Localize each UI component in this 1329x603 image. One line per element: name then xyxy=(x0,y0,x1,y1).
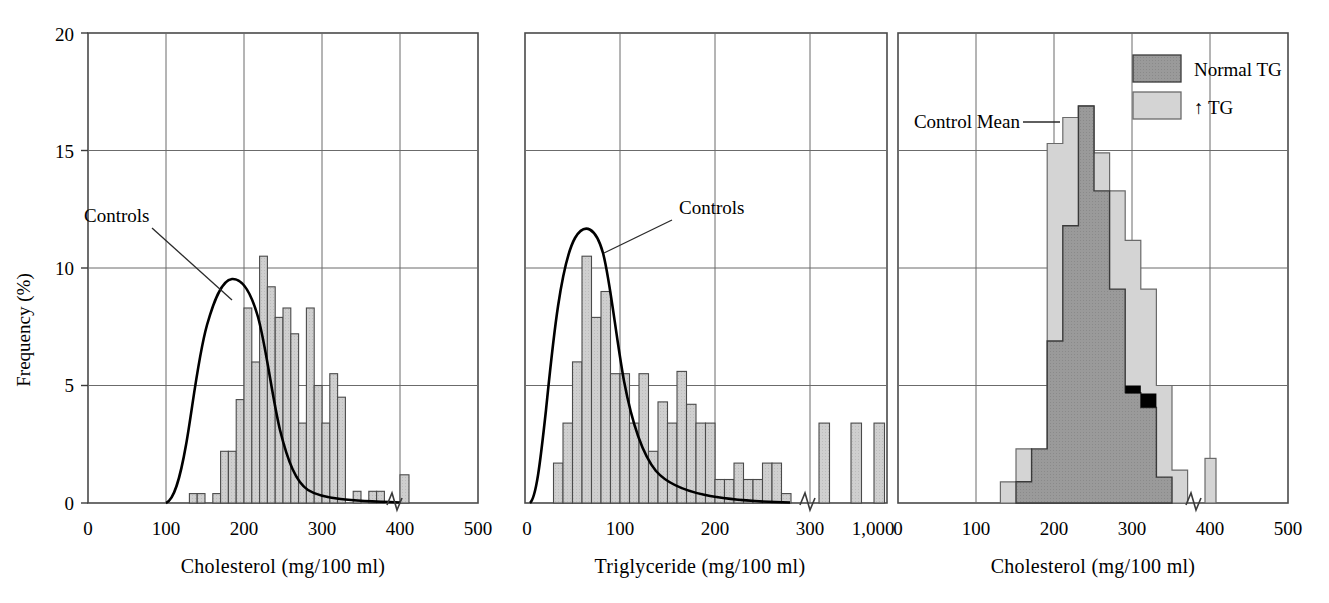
panel1-xtick-0: 0 xyxy=(83,518,93,539)
panel1-y-tick-marks xyxy=(81,33,88,503)
legend-swatch-normal-tg xyxy=(1133,55,1181,82)
panel3-xtick-0: 0 xyxy=(893,518,903,539)
panel2-xtick-300: 300 xyxy=(796,518,825,539)
panel1-ytick-15: 15 xyxy=(55,141,74,162)
panel-triglyceride-controls: Controls 0 100 200 300 1,000 Triglycerid… xyxy=(522,33,894,578)
panel1-xtick-300: 300 xyxy=(308,518,337,539)
panel-cholesterol-tg-groups: Control Mean Normal TG ↑ TG 0 100 200 30… xyxy=(893,33,1302,578)
panel1-x-axis-title: Cholesterol (mg/100 ml) xyxy=(181,555,386,578)
panel2-xtick-200: 200 xyxy=(701,518,730,539)
legend-label-elevated-tg: ↑ TG xyxy=(1194,97,1234,118)
panel3-xtick-500: 500 xyxy=(1274,518,1303,539)
panel2-xtick-1000: 1,000 xyxy=(852,518,895,539)
figure-root: Controls 0 5 10 15 20 Frequency (%) 0 10… xyxy=(0,0,1329,603)
panel1-controls-annotation: Controls xyxy=(84,205,149,226)
panel-cholesterol-controls: Controls 0 5 10 15 20 Frequency (%) 0 10… xyxy=(13,24,492,578)
panel1-ytick-10: 10 xyxy=(55,258,74,279)
panel3-xtick-200: 200 xyxy=(1040,518,1069,539)
panel3-xtick-100: 100 xyxy=(962,518,991,539)
panel1-xtick-400: 400 xyxy=(386,518,415,539)
panel2-controls-annotation: Controls xyxy=(679,197,744,218)
panel1-ytick-0: 0 xyxy=(65,493,75,514)
y-axis-title: Frequency (%) xyxy=(13,273,35,386)
legend-label-normal-tg: Normal TG xyxy=(1194,59,1282,80)
three-panel-histogram-figure: Controls 0 5 10 15 20 Frequency (%) 0 10… xyxy=(0,0,1329,603)
panel1-xtick-100: 100 xyxy=(152,518,181,539)
panel3-outlier-bar xyxy=(1205,458,1216,503)
panel2-xtick-0: 0 xyxy=(522,518,532,539)
legend-swatch-elevated-tg xyxy=(1133,92,1181,119)
panel1-ytick-20: 20 xyxy=(55,24,74,45)
panel1-xtick-200: 200 xyxy=(230,518,259,539)
panel3-x-axis-title: Cholesterol (mg/100 ml) xyxy=(991,555,1196,578)
panel3-xtick-400: 400 xyxy=(1196,518,1225,539)
panel1-ytick-5: 5 xyxy=(65,375,75,396)
panel3-xtick-300: 300 xyxy=(1118,518,1147,539)
panel2-xtick-100: 100 xyxy=(606,518,635,539)
panel3-control-mean-annotation: Control Mean xyxy=(914,111,1021,132)
panel1-xtick-500: 500 xyxy=(464,518,493,539)
panel2-x-axis-title: Triglyceride (mg/100 ml) xyxy=(595,555,806,578)
